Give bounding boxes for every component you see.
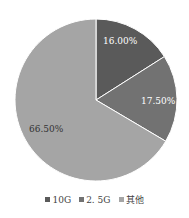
legend-label-10g: 10G [52, 195, 71, 205]
legend-item-10g: 10G [45, 193, 71, 206]
pie-chart [0, 0, 189, 218]
chart-legend: 10G 2. 5G 其他 [0, 193, 189, 206]
legend-label-other: 其他 [126, 193, 144, 206]
legend-swatch-10g [45, 197, 50, 202]
slice-label-10g: 16.00% [103, 36, 137, 46]
slice-label-2-5g: 17.50% [141, 96, 175, 106]
legend-item-2-5g: 2. 5G [79, 193, 110, 206]
slice-label-other: 66.50% [29, 124, 63, 134]
legend-swatch-other [119, 197, 124, 202]
legend-swatch-2-5g [79, 197, 84, 202]
legend-item-other: 其他 [119, 193, 144, 206]
legend-label-2-5g: 2. 5G [86, 195, 110, 205]
